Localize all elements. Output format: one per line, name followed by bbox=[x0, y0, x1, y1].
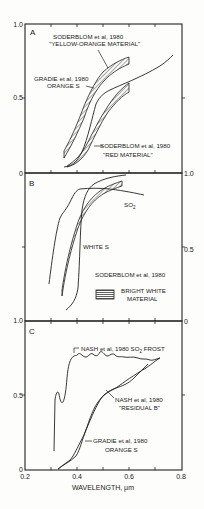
spectra-figure: 1.0 0.5 0 1.0 A SODERBLOM et al, 1980 "Y… bbox=[0, 0, 204, 509]
label-white-s: WHITE S bbox=[83, 243, 109, 250]
panel-b-ticks bbox=[22, 247, 185, 321]
xtick-0.4: 0.4 bbox=[72, 473, 82, 480]
panel-c-letter: C bbox=[29, 327, 35, 336]
label-nash-residual-2: "RESIDUAL B" bbox=[119, 404, 160, 411]
panel-a-ytick-0: 0 bbox=[19, 170, 23, 177]
label-soderblom-red: SODERBLOM et al, 1980 bbox=[100, 142, 171, 149]
bright-white-band bbox=[62, 181, 122, 296]
nash-frost-leader bbox=[74, 348, 79, 353]
xtick-0.6: 0.6 bbox=[124, 473, 134, 480]
panel-b-letter: B bbox=[29, 179, 34, 188]
label-orange-s-a: ORANGE S bbox=[47, 82, 80, 89]
panel-a: 1.0 0.5 0 1.0 A SODERBLOM et al, 1980 "Y… bbox=[13, 21, 194, 177]
panel-b-left-ytick-bottom: 1.0 bbox=[13, 317, 23, 324]
legend-bright-white-swatch bbox=[96, 290, 114, 299]
panel-a-letter: A bbox=[30, 28, 36, 37]
label-soderblom-b: SODERBLOM et al, 1980 bbox=[95, 271, 166, 278]
label-gradie-c-1: GRADIE et al, 1980 bbox=[93, 437, 148, 444]
nash-residual-b-curve bbox=[58, 364, 148, 469]
label-gradie-c-2: ORANGE S bbox=[105, 446, 138, 453]
panel-c-ytick-0: 0 bbox=[19, 466, 23, 473]
panel-a-ytick-05: 0.5 bbox=[13, 94, 23, 101]
label-soderblom-yo: SODERBLOM et al, 1980 bbox=[53, 33, 124, 40]
panel-a-ytick-1: 1.0 bbox=[13, 21, 23, 28]
panel-b: 0.5 1.0 B SO2 WHITE S SODERBLOM et al, 1… bbox=[13, 173, 194, 324]
label-nash-residual-1: NASH et al, 1980 bbox=[115, 396, 163, 403]
label-nash-so2-frost: NASH et al, 1980 SO2 FROST bbox=[81, 345, 165, 354]
label-so2: SO2 bbox=[124, 201, 136, 210]
panel-c-right-ytick: 0 bbox=[184, 318, 188, 325]
label-red-material: "RED MATERIAL" bbox=[103, 151, 153, 158]
panel-c-ytick-05: 0.5 bbox=[13, 392, 23, 399]
label-yellow-orange: "YELLOW-ORANGE MATERIAL" bbox=[49, 40, 140, 47]
xtick-0.2: 0.2 bbox=[20, 473, 30, 480]
panel-b-right-ytick-05: 0.5 bbox=[184, 246, 194, 253]
panel-a-right-ytick: 1.0 bbox=[184, 170, 194, 177]
panel-c: 0 0.5 0 C NASH et al, 1980 SO2 FROST NAS… bbox=[13, 318, 188, 492]
legend-bright-white-label-2: MATERIAL bbox=[127, 295, 158, 302]
yellow-orange-leader bbox=[98, 50, 108, 68]
label-gradie-a: GRADIE et al, 1980 bbox=[34, 75, 89, 82]
xtick-0.8: 0.8 bbox=[176, 473, 186, 480]
legend-bright-white-label-1: BRIGHT WHITE bbox=[121, 287, 166, 294]
x-axis-label: WAVELENGTH, µm bbox=[72, 484, 134, 492]
